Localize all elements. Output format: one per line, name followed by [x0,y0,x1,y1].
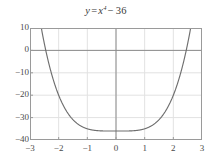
chart-figure: y=x4−36 100−10−20−30−40 −3−2−10123 [0,0,213,164]
x-tick-label: 2 [163,144,183,153]
x-tick-label: −2 [49,144,69,153]
x-tick-label: 3 [192,144,212,153]
x-tick-label: −1 [77,144,97,153]
x-tick-label: 1 [135,144,155,153]
x-tick-label: −3 [20,144,40,153]
x-tick-label: 0 [106,144,126,153]
x-axis-tick-labels: −3−2−10123 [0,0,213,164]
